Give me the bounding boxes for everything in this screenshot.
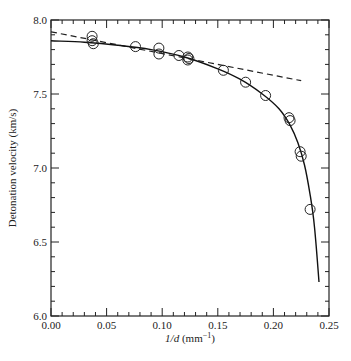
x-tick-label: 0.05: [97, 319, 117, 331]
x-tick-label: 0.15: [208, 319, 228, 331]
x-tick-label: 0.10: [153, 319, 173, 331]
x-tick-label: 0.20: [264, 319, 284, 331]
y-tick-label: 7.5: [33, 88, 47, 100]
x-axis-unit-exponent: −1: [203, 331, 212, 340]
y-tick-labels: 6.06.57.07.58.0: [33, 14, 47, 322]
chart: 0.000.050.100.150.200.25 6.06.57.07.58.0…: [0, 0, 351, 361]
data-points: [87, 31, 315, 214]
x-axis-unit: (mm: [179, 332, 203, 345]
data-point-marker: [261, 91, 271, 101]
y-tick-label: 8.0: [33, 14, 47, 26]
y-axis-label: Detonation velocity (km/s): [6, 108, 19, 227]
y-tick-label: 7.0: [33, 162, 47, 174]
x-tick-labels: 0.000.050.100.150.200.25: [41, 319, 339, 331]
x-tick-label: 0.25: [319, 319, 339, 331]
data-point-marker: [305, 204, 315, 214]
y-tick-label: 6.0: [33, 310, 47, 322]
y-tick-label: 6.5: [33, 236, 47, 248]
x-axis-label: 1/d (mm−1): [165, 331, 215, 345]
x-axis-unit-close: ): [211, 332, 215, 345]
x-axis-variable: 1/d: [165, 332, 180, 344]
